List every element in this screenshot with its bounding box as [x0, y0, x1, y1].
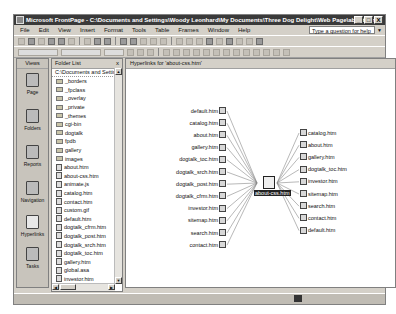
menu-tools[interactable]: Tools	[132, 27, 146, 33]
folder-item[interactable]: _borders	[56, 77, 114, 86]
toggle-pane-icon[interactable]	[58, 38, 65, 45]
incoming-link-node[interactable]: default.htm	[191, 107, 226, 114]
increase-font-icon[interactable]	[203, 49, 210, 56]
outgoing-link-node[interactable]: sitemap.htm	[300, 190, 338, 197]
scroll-left-button[interactable]: ◀	[52, 284, 59, 290]
folder-item[interactable]: _private	[56, 103, 114, 112]
underline-icon[interactable]	[147, 49, 154, 56]
scroll-up-button[interactable]: ▲	[115, 68, 122, 75]
copy-icon[interactable]	[130, 38, 137, 45]
file-item[interactable]: dogtalk_srch.htm	[56, 240, 114, 249]
publish-icon[interactable]	[48, 38, 55, 45]
view-hyperlinks[interactable]: Hyperlinks	[17, 215, 48, 237]
file-item[interactable]: investor.htm	[56, 275, 114, 284]
menu-window[interactable]: Window	[208, 27, 229, 33]
new-page-icon[interactable]	[18, 38, 25, 45]
spelling-icon[interactable]	[104, 38, 111, 45]
hyperlink-icon[interactable]	[216, 38, 223, 45]
search-icon[interactable]	[68, 38, 75, 45]
scroll-right-button[interactable]: ▶	[108, 284, 115, 290]
minimize-button[interactable]: _	[354, 16, 363, 24]
folder-item[interactable]: dogtalk	[56, 129, 114, 138]
decrease-indent-icon[interactable]	[243, 49, 250, 56]
file-item[interactable]: gallery.htm	[56, 257, 114, 266]
horizontal-scrollbar[interactable]: ◀ ▶	[52, 283, 115, 291]
help-icon[interactable]	[256, 38, 263, 45]
stop-icon[interactable]	[236, 38, 243, 45]
folder-item[interactable]: fpdb	[56, 137, 114, 146]
incoming-link-node[interactable]: sitemap.htm	[188, 217, 226, 224]
outgoing-link-node[interactable]: investor.htm	[300, 178, 338, 185]
incoming-link-node[interactable]: dogtalk_srch.htm	[176, 168, 226, 175]
incoming-link-node[interactable]: dogtalk_toc.htm	[179, 156, 226, 163]
outgoing-link-node[interactable]: search.htm	[300, 202, 335, 209]
borders-icon[interactable]	[263, 49, 270, 56]
bullets-icon[interactable]	[233, 49, 240, 56]
file-item[interactable]: catalog.htm	[56, 189, 114, 198]
folder-item[interactable]: cgi-bin	[56, 120, 114, 129]
menu-view[interactable]: View	[58, 27, 71, 33]
insert-table-icon[interactable]	[186, 38, 193, 45]
view-folders[interactable]: Folders	[17, 109, 48, 131]
vertical-scrollbar[interactable]: ▲ ▼	[114, 68, 122, 284]
file-item[interactable]: about-css.htm	[56, 172, 114, 181]
decrease-font-icon[interactable]	[213, 49, 220, 56]
folder-root[interactable]: C:\Documents and Settin	[52, 68, 117, 77]
maximize-button[interactable]: □	[364, 16, 373, 24]
menu-frames[interactable]: Frames	[178, 27, 198, 33]
incoming-link-node[interactable]: catalog.htm	[190, 119, 226, 126]
preview-icon[interactable]	[94, 38, 101, 45]
incoming-link-node[interactable]: dogtalk_cfrm.htm	[176, 192, 226, 199]
file-item[interactable]: about.htm	[56, 163, 114, 172]
show-all-icon[interactable]	[246, 38, 253, 45]
file-item[interactable]: contact.htm	[56, 197, 114, 206]
file-item[interactable]: dogtalk_toc.htm	[56, 249, 114, 258]
cut-icon[interactable]	[120, 38, 127, 45]
undo-icon[interactable]	[150, 38, 157, 45]
align-left-icon[interactable]	[163, 49, 170, 56]
menu-file[interactable]: File	[20, 27, 30, 33]
file-item[interactable]: dogtalk_cfrm.htm	[56, 223, 114, 232]
save-icon[interactable]	[38, 38, 45, 45]
align-right-icon[interactable]	[183, 49, 190, 56]
incoming-link-node[interactable]: contact.htm	[190, 241, 226, 248]
insert-picture-icon[interactable]	[196, 38, 203, 45]
font-size-dropdown[interactable]	[104, 49, 124, 56]
file-item[interactable]: dogtalk_post.htm	[56, 232, 114, 241]
folder-item[interactable]: images	[56, 154, 114, 163]
scroll-down-button[interactable]: ▼	[115, 277, 122, 284]
incoming-link-node[interactable]: gallery.htm	[192, 144, 227, 151]
increase-indent-icon[interactable]	[253, 49, 260, 56]
outgoing-link-node[interactable]: about.htm	[300, 141, 332, 148]
menu-edit[interactable]: Edit	[39, 27, 49, 33]
menu-help[interactable]: Help	[238, 27, 250, 33]
incoming-link-node[interactable]: dogtalk_post.htm	[176, 180, 226, 187]
incoming-link-node[interactable]: search.htm	[191, 229, 226, 236]
drawing-icon[interactable]	[206, 38, 213, 45]
justify-icon[interactable]	[193, 49, 200, 56]
italic-icon[interactable]	[137, 49, 144, 56]
incoming-link-node[interactable]: about.htm	[194, 131, 226, 138]
menu-insert[interactable]: Insert	[80, 27, 95, 33]
web-component-icon[interactable]	[176, 38, 183, 45]
folder-item[interactable]: gallery	[56, 146, 114, 155]
font-color-icon[interactable]	[283, 49, 290, 56]
outgoing-link-node[interactable]: default.htm	[300, 227, 335, 234]
folder-item[interactable]: _overlay	[56, 94, 114, 103]
paste-icon[interactable]	[140, 38, 147, 45]
file-item[interactable]: global.asa	[56, 266, 114, 275]
outgoing-link-node[interactable]: contact.htm	[300, 214, 336, 221]
print-icon[interactable]	[84, 38, 91, 45]
file-item[interactable]: custom.gif	[56, 206, 114, 215]
menu-table[interactable]: Table	[155, 27, 169, 33]
folder-item[interactable]: _themes	[56, 111, 114, 120]
refresh-icon[interactable]	[226, 38, 233, 45]
folder-item[interactable]: _fpclass	[56, 86, 114, 95]
view-navigation[interactable]: Navigation	[17, 181, 48, 203]
outgoing-link-node[interactable]: catalog.htm	[300, 129, 336, 136]
incoming-link-node[interactable]: investor.htm	[188, 205, 226, 212]
file-item[interactable]: animate.js	[56, 180, 114, 189]
center-page-node[interactable]: about-css.htm	[254, 176, 284, 196]
file-item[interactable]: default.htm	[56, 215, 114, 224]
bold-icon[interactable]	[127, 49, 134, 56]
